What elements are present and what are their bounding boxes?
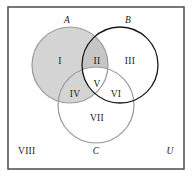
region-label-v: V (93, 79, 100, 89)
region-label-vi: VI (111, 89, 122, 99)
venn-diagram-canvas: A B C I II III IV V VI VII VIII U (0, 0, 195, 177)
region-label-i: I (58, 56, 61, 66)
set-label-c: C (93, 146, 100, 156)
region-label-vii: VII (90, 113, 104, 123)
region-label-ii: II (94, 56, 101, 66)
region-label-iii: III (125, 56, 135, 66)
universal-set-label: U (166, 146, 174, 156)
set-label-a: A (63, 15, 70, 25)
region-label-viii: VIII (18, 146, 36, 156)
set-label-b: B (125, 15, 131, 25)
region-label-iv: IV (70, 89, 81, 99)
venn-diagram-figure: A B C I II III IV V VI VII VIII U (0, 0, 195, 177)
